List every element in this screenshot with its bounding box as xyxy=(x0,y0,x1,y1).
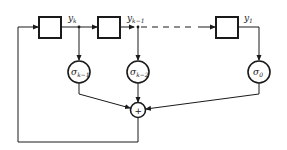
delay-box-3 xyxy=(216,17,238,38)
label-y1: y1 xyxy=(243,13,253,24)
feedback-path xyxy=(18,27,138,142)
coefficient-sigma-k-2: σk−2 xyxy=(127,61,149,83)
summing-junction: + xyxy=(131,103,146,118)
adder-inputs xyxy=(79,83,259,109)
coefficient-sigma-0: σ0 xyxy=(248,61,270,83)
feedback-shift-register-diagram: yk yk−1 y1 σk−1 σk−2 σ0 + xyxy=(0,0,287,150)
coefficient-sigma-k-1: σk−1 xyxy=(68,61,90,83)
delay-box-2 xyxy=(98,17,120,38)
label-yk: yk xyxy=(67,13,77,24)
label-yk-1: yk−1 xyxy=(126,13,145,24)
svg-text:+: + xyxy=(135,106,143,116)
delay-box-1 xyxy=(39,17,61,38)
